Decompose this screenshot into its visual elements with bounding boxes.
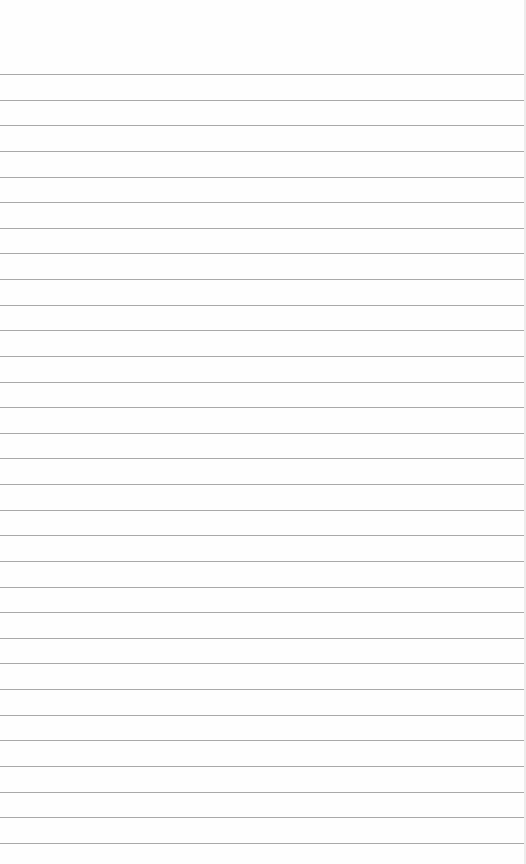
ruled-line (0, 407, 526, 408)
ruled-line (0, 356, 526, 357)
ruled-line (0, 663, 526, 664)
ruled-line (0, 100, 526, 101)
ruled-line (0, 202, 526, 203)
ruled-line (0, 458, 526, 459)
ruled-line (0, 792, 526, 793)
ruled-line (0, 689, 526, 690)
ruled-line (0, 382, 526, 383)
ruled-line (0, 484, 526, 485)
ruled-line (0, 612, 526, 613)
ruled-line (0, 587, 526, 588)
lined-paper (0, 0, 526, 864)
ruled-line (0, 843, 526, 844)
ruled-line (0, 638, 526, 639)
ruled-line (0, 561, 526, 562)
ruled-line (0, 151, 526, 152)
ruled-line (0, 740, 526, 741)
ruled-line (0, 817, 526, 818)
ruled-line (0, 279, 526, 280)
ruled-line (0, 433, 526, 434)
ruled-line (0, 74, 526, 75)
ruled-line (0, 305, 526, 306)
ruled-line (0, 510, 526, 511)
ruled-line (0, 535, 526, 536)
ruled-line (0, 177, 526, 178)
ruled-line (0, 330, 526, 331)
ruled-line (0, 715, 526, 716)
ruled-line (0, 253, 526, 254)
ruled-line (0, 228, 526, 229)
ruled-line (0, 125, 526, 126)
ruled-line (0, 766, 526, 767)
